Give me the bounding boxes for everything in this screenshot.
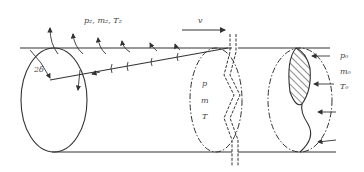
- left-end-ellipse: [21, 48, 87, 152]
- ambient-conditions-label: p₂, m₂, T₂: [84, 17, 122, 25]
- middle-section-ellipse: [190, 48, 242, 152]
- outflow-arrows: [50, 28, 180, 54]
- inner-pressure-label: p: [202, 80, 207, 88]
- inner-mass-label: m: [201, 97, 209, 105]
- inlet-temperature-label: T₀: [340, 83, 349, 91]
- interface-curve: [300, 104, 311, 152]
- angle-label: 2δ: [34, 66, 44, 74]
- inlet-mass-label: m₀: [340, 68, 351, 76]
- diagram-canvas: [0, 0, 364, 172]
- velocity-label: v: [198, 17, 203, 25]
- slant-arrows: [92, 53, 178, 74]
- break-lines: [224, 34, 240, 166]
- down-arrow: [78, 70, 80, 90]
- hatched-region: [289, 48, 310, 105]
- cylinder-flow-diagram: p₂, m₂, T₂ v 2δ p m T p₀ m₀ T₀: [0, 0, 364, 172]
- cone-slant-line: [50, 48, 228, 80]
- inlet-pressure-label: p₀: [340, 52, 348, 60]
- inner-temperature-label: T: [202, 113, 207, 121]
